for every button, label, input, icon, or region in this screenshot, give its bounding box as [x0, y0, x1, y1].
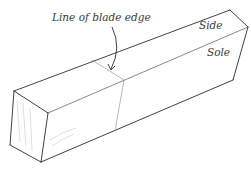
sole-label: Sole — [207, 46, 230, 58]
pointer-arrow — [108, 27, 117, 70]
block-diagram: Line of blade edge Side Sole — [0, 0, 251, 172]
blade-edge-line — [92, 60, 124, 131]
block-outline — [10, 10, 248, 162]
blade-edge-label: Line of blade edge — [51, 11, 151, 23]
side-label: Side — [199, 19, 223, 31]
